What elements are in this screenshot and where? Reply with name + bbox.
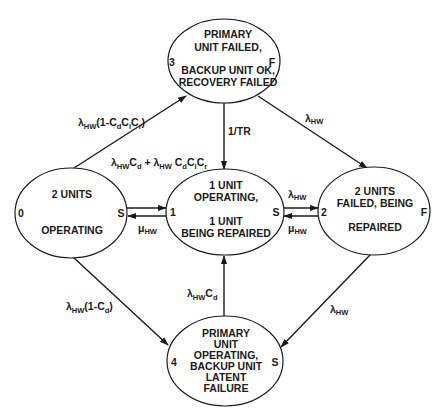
state-2-type: F	[421, 206, 428, 218]
state-3-line-1: PRIMARY	[204, 28, 252, 40]
rate-0-to-4: λHW(1-Cd)	[66, 300, 113, 315]
state-2: 2 UNITS FAILED, BEING REPAIRED 2 F	[318, 167, 430, 255]
state-3-type: F	[269, 56, 276, 68]
state-2-line-1: 2 UNITS	[355, 185, 395, 197]
state-0: 2 UNITS OPERATING 0 S	[15, 168, 127, 258]
state-4-type: S	[271, 356, 278, 368]
rate-4-to-1: λHWCd	[187, 287, 218, 302]
state-0-type: S	[117, 207, 124, 219]
state-1-line-5: BEING REPAIRED	[181, 227, 271, 239]
state-3-line-2: UNIT FAILED,	[194, 41, 262, 53]
state-1: 1 UNIT OPERATING, 1 UNIT BEING REPAIRED …	[166, 169, 284, 255]
rate-0-to-1: λHWCd + λHW CdCiCr	[111, 156, 207, 171]
state-3: PRIMARY UNIT FAILED, BACKUP UNIT OK, REC…	[168, 19, 280, 103]
state-4-line-6: FAILURE	[204, 382, 249, 394]
state-2-line-4: REPAIRED	[348, 221, 402, 233]
state-4: PRIMARY UNIT OPERATING, BACKUP UNIT LATE…	[167, 316, 283, 406]
state-1-type: S	[272, 206, 279, 218]
state-3-line-4: BACKUP UNIT OK,	[181, 64, 275, 76]
state-2-line-2: FAILED, BEING	[337, 197, 413, 209]
rate-1-to-0: μHW	[138, 222, 158, 236]
rate-3-to-2: λHW	[305, 112, 324, 126]
state-3-number: 3	[169, 56, 175, 68]
state-3-line-5: RECOVERY FAILED	[179, 76, 278, 88]
rate-1-to-2: λHW	[288, 188, 307, 202]
edge-3-to-2	[258, 96, 367, 168]
state-4-number: 4	[171, 356, 177, 368]
rate-3-to-1: 1/TR	[228, 125, 251, 137]
state-0-line-3: OPERATING	[41, 224, 103, 236]
edge-2-to-4	[281, 254, 371, 347]
markov-diagram: PRIMARY UNIT FAILED, BACKUP UNIT OK, REC…	[0, 0, 444, 417]
state-0-line-1: 2 UNITS	[52, 188, 92, 200]
rate-2-to-4: λHW	[330, 303, 349, 317]
state-2-number: 2	[321, 206, 327, 218]
state-1-line-1: 1 UNIT	[209, 179, 243, 191]
rate-2-to-1: μHW	[288, 222, 308, 236]
state-1-line-2: OPERATING,	[194, 191, 259, 203]
state-0-number: 0	[18, 207, 24, 219]
state-1-number: 1	[170, 206, 176, 218]
state-1-line-4: 1 UNIT	[209, 215, 243, 227]
